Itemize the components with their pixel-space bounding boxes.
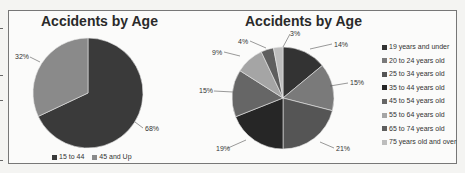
chart2-label-45-54: 15% [199,87,213,94]
leader-line [214,91,233,92]
chart2-title: Accidents by Age [245,13,362,29]
legend-item: 45 to 54 years old [382,97,456,111]
leader-line [250,41,266,48]
chart1-title: Accidents by Age [41,13,158,29]
legend-item: 19 years and under [382,43,456,57]
legend-item: 55 to 64 years old [382,111,456,125]
leader-line [310,44,332,49]
legend-item: 65 to 74 years old [382,125,456,139]
chart2-label-55-64: 9% [212,49,222,56]
legend-swatch [52,155,57,160]
legend-item-45-and-up: 45 and Up [92,153,131,160]
leader-line [283,34,290,47]
legend-item: 25 to 34 years old [382,70,456,84]
leader-line [135,122,143,128]
leader-line [320,142,334,148]
legend-item-15-to-44: 15 to 44 [52,153,84,160]
legend-item: 35 to 44 years old [382,84,456,98]
chart2-label-25-34: 21% [336,145,350,152]
chart2-label-75-over: 3% [290,30,300,37]
leader-line [330,83,348,86]
chart1-label-15-to-44: 68% [145,125,159,132]
legend-item: 75 years old and over [382,138,456,152]
chart1-legend: 15 to 44 45 and Up [52,153,138,160]
chart2-label-20-24: 15% [350,79,364,86]
chart2-label-65-74: 4% [238,38,248,45]
legend-swatch [92,155,97,160]
leader-line [228,140,246,148]
chart2-label-19-under: 14% [334,41,348,48]
chart2-legend: 19 years and under 20 to 24 years old 25… [382,43,456,152]
chart1-label-45-and-up: 32% [15,53,29,60]
leader-line [224,52,240,56]
chart2-label-35-44: 19% [216,145,230,152]
leader-line [30,57,40,62]
legend-item: 20 to 24 years old [382,57,456,71]
